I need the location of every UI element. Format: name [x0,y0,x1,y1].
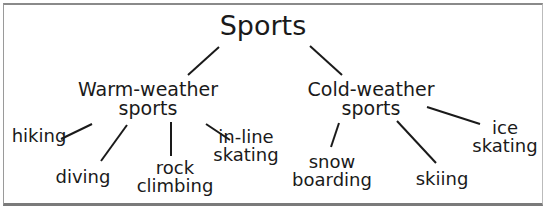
edge-warm-diving [101,125,127,161]
edge-cold-snow [331,123,339,147]
node-ice-skating: ice skating [472,119,537,155]
node-rock-climbing: rock climbing [137,159,214,195]
node-cold-weather-sports: Cold-weather sports [308,80,435,118]
node-root-label: Sports [220,12,307,40]
edge-root-cold [310,46,342,75]
node-in-line-skating: in-line skating [213,128,278,164]
edge-cold-skiing [397,121,436,163]
node-hiking: hiking [12,127,67,145]
node-warm-weather-sports: Warm-weather sports [78,80,218,118]
node-diving: diving [56,168,111,186]
edge-root-warm [188,47,219,75]
node-root: Sports [220,12,307,40]
node-snow-boarding: snow boarding [292,153,372,189]
node-skiing: skiing [416,170,469,188]
